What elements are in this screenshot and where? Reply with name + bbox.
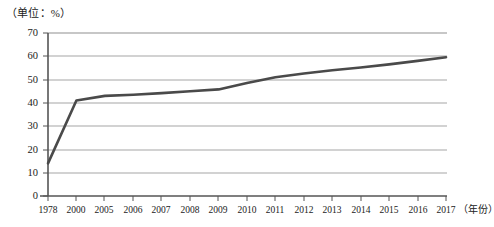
- data-series-urbanization-rate: [48, 57, 446, 163]
- x-tick-2015: 2015: [374, 205, 404, 215]
- plot-area: [0, 0, 494, 227]
- x-tick-2008: 2008: [175, 205, 205, 215]
- x-tick-2005: 2005: [89, 205, 119, 215]
- x-tick-2006: 2006: [118, 205, 148, 215]
- x-tick-2010: 2010: [232, 205, 262, 215]
- x-tick-2000: 2000: [61, 205, 91, 215]
- line-chart: （单位：%）: [0, 0, 494, 227]
- x-tick-2012: 2012: [289, 205, 319, 215]
- y-tick-20: 20: [12, 145, 38, 156]
- x-tick-2011: 2011: [260, 205, 290, 215]
- y-tick-0: 0: [12, 191, 38, 202]
- y-tick-40: 40: [12, 98, 38, 109]
- x-tick-2013: 2013: [317, 205, 347, 215]
- x-tick-2009: 2009: [203, 205, 233, 215]
- x-tick-2016: 2016: [403, 205, 433, 215]
- y-tick-30: 30: [12, 121, 38, 132]
- x-tick-1978: 1978: [33, 205, 63, 215]
- x-tick-2017: 2017: [431, 205, 461, 215]
- y-tick-10: 10: [12, 168, 38, 179]
- y-tick-70: 70: [12, 28, 38, 39]
- x-axis-ticks: [48, 196, 446, 201]
- x-tick-2014: 2014: [346, 205, 376, 215]
- x-axis-title: （年份）: [458, 204, 494, 215]
- y-tick-50: 50: [12, 75, 38, 86]
- gridlines: [48, 33, 447, 173]
- x-tick-2007: 2007: [146, 205, 176, 215]
- y-tick-60: 60: [12, 51, 38, 62]
